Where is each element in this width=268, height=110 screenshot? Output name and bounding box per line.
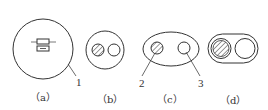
callout-line-1 (68, 64, 76, 76)
panel-a (13, 19, 76, 79)
panel-label-a: （a） (30, 89, 56, 104)
upper-rect-a (37, 39, 49, 44)
plain-circle-c (178, 42, 190, 54)
plain-circle-d (235, 39, 255, 59)
hatched-circle-c (151, 42, 163, 54)
callout-3: 3 (198, 77, 204, 89)
callout-1: 1 (76, 76, 82, 88)
callout-line-2 (142, 53, 155, 76)
panel-label-c: （c） (157, 91, 183, 106)
plain-circle-b (108, 44, 120, 56)
hatched-core-d (213, 41, 229, 57)
panel-label-b: （b） (97, 91, 123, 106)
panel-c (142, 32, 200, 76)
callout-2: 2 (139, 77, 145, 89)
callout-line-3 (186, 52, 200, 76)
panel-b (86, 31, 124, 69)
hatched-circle-b (92, 44, 104, 56)
panel-label-d: （d） (220, 92, 246, 107)
panel-d (208, 34, 258, 63)
